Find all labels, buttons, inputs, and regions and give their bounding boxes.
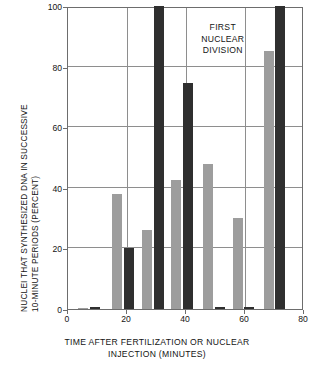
bar-gray-5 — [233, 218, 243, 309]
annotation-line3: DIVISION — [201, 45, 244, 57]
bar-dark-4 — [215, 307, 225, 309]
x-tick-label-0: 0 — [65, 314, 70, 324]
bar-gray-4 — [203, 164, 213, 309]
y-tick-mark-60 — [63, 128, 67, 129]
x-tick-label-80: 80 — [298, 314, 308, 324]
y-tick-label-40: 40 — [52, 184, 62, 194]
x-axis-label-line2: INJECTION (MINUTES) — [0, 348, 314, 360]
annotation-line2: NUCLEAR — [201, 34, 244, 46]
bar-dark-2 — [154, 6, 164, 309]
x-axis-ticks: 020406080 — [0, 314, 314, 328]
bar-gray-3 — [171, 180, 181, 309]
bar-gray-0 — [78, 308, 88, 310]
bar-gray-2 — [142, 230, 152, 309]
plot-area: FIRST NUCLEAR DIVISION — [67, 7, 303, 310]
y-tick-mark-40 — [63, 189, 67, 190]
x-axis-label: TIME AFTER FERTILIZATION OR NUCLEAR INJE… — [0, 336, 314, 360]
x-tick-label-40: 40 — [180, 314, 190, 324]
y-axis-label-line1: NUCLEI THAT SYNTHESIZED DNA IN SUCCESSIV… — [19, 104, 29, 312]
gridline-x-60 — [245, 8, 246, 309]
x-tick-mark-40 — [185, 310, 186, 314]
y-tick-label-100: 100 — [48, 2, 62, 12]
x-tick-label-20: 20 — [121, 314, 131, 324]
bar-gray-1 — [112, 194, 122, 309]
x-tick-mark-60 — [244, 310, 245, 314]
y-tick-mark-80 — [63, 68, 67, 69]
y-tick-mark-100 — [63, 7, 67, 8]
y-tick-label-60: 60 — [52, 123, 62, 133]
y-tick-mark-20 — [63, 249, 67, 250]
x-tick-label-60: 60 — [239, 314, 249, 324]
bar-gray-6 — [264, 51, 274, 309]
annotation-first-nuclear-division: FIRST NUCLEAR DIVISION — [201, 22, 244, 57]
x-tick-mark-20 — [126, 310, 127, 314]
annotation-line1: FIRST — [201, 22, 244, 34]
bar-dark-5 — [244, 307, 254, 309]
x-axis-label-line1: TIME AFTER FERTILIZATION OR NUCLEAR — [0, 336, 314, 348]
y-tick-label-80: 80 — [52, 63, 62, 73]
y-tick-label-20: 20 — [52, 244, 62, 254]
bar-dark-0 — [90, 307, 100, 309]
bar-dark-1 — [124, 248, 134, 309]
bar-dark-6 — [275, 6, 285, 309]
chart-figure: NUCLEI THAT SYNTHESIZED DNA IN SUCCESSIV… — [0, 0, 314, 371]
x-tick-mark-80 — [303, 310, 304, 314]
bar-dark-3 — [183, 83, 193, 309]
x-tick-mark-0 — [67, 310, 68, 314]
